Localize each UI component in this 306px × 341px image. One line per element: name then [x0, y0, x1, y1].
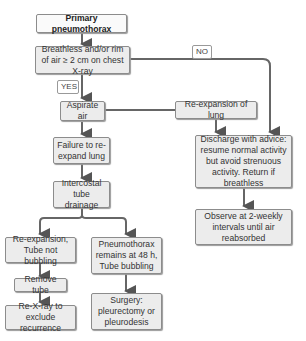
edge-label-yes: YES	[57, 80, 79, 94]
node-reexpansion-tube-not-bubbling: Re-expansion, Tube not bubbling	[5, 237, 76, 263]
node-remove-tube: Remove tube	[14, 278, 67, 292]
edge-label-no: NO	[192, 45, 212, 59]
node-failure-to-reexpand: Failure to re-expand lung	[53, 137, 110, 164]
node-primary-pneumothorax: Primary pneumothorax	[36, 14, 127, 33]
node-pneumothorax-remains: Pneumothorax remains at 48 h, Tube bubbl…	[91, 237, 162, 274]
node-rexray: Re-X-ray to exclude recurrence	[5, 305, 76, 330]
node-intercostal-drainage: Intercostal tube drainage	[53, 181, 110, 208]
node-surgery: Surgery: pleurectomy or pleurodesis	[91, 293, 162, 330]
node-observe-2-weekly: Observe at 2-weekly intervals until air …	[195, 209, 292, 245]
node-discharge-with-advice: Discharge with advice: resume normal act…	[195, 135, 292, 188]
node-breathless-check: Breathless and/or rim of air ≥ 2 cm on c…	[35, 46, 130, 74]
node-aspirate-air: Aspirate air	[60, 101, 105, 121]
node-reexpansion-of-lung: Re-expansion of lung	[175, 101, 257, 119]
